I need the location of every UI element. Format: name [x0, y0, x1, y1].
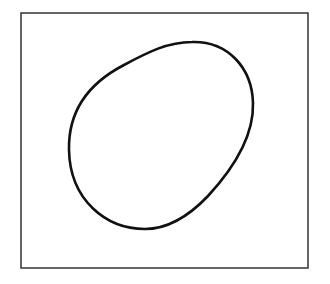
- frame-rectangle: [21, 13, 308, 268]
- egg-shaped-closed-curve: [69, 42, 253, 229]
- figure-canvas: [0, 0, 330, 284]
